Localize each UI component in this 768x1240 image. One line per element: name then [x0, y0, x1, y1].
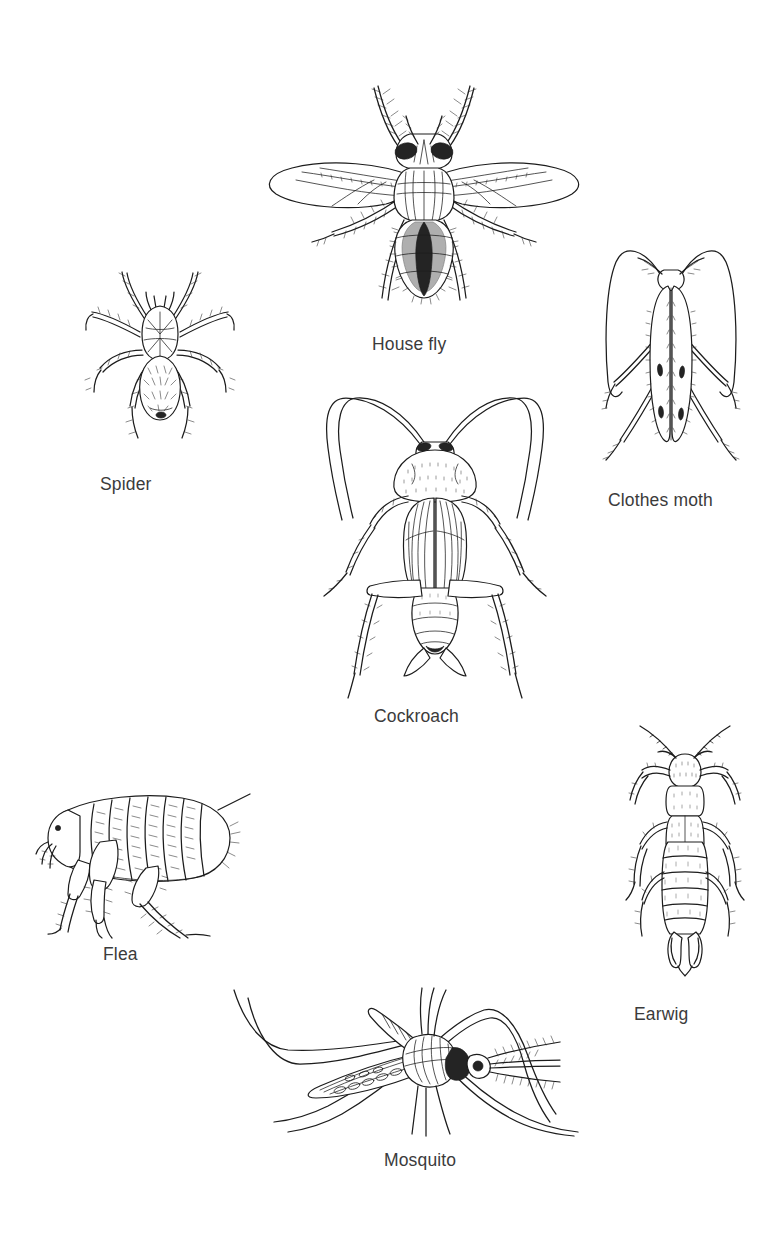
pest-chart-page: House fly — [0, 0, 768, 1240]
label-spider: Spider — [100, 476, 152, 494]
label-clothes-moth: Clothes moth — [608, 492, 713, 510]
label-house-fly: House fly — [372, 336, 446, 354]
house-fly-illustration — [262, 72, 586, 314]
label-flea: Flea — [103, 946, 138, 964]
clothes-moth-illustration — [598, 242, 744, 474]
label-earwig: Earwig — [634, 1006, 688, 1024]
cockroach-illustration — [312, 392, 558, 698]
flea-illustration — [34, 782, 250, 938]
spider-illustration — [82, 256, 238, 442]
earwig-illustration — [622, 722, 748, 978]
label-cockroach: Cockroach — [374, 708, 459, 726]
mosquito-illustration — [204, 982, 596, 1138]
label-mosquito: Mosquito — [384, 1152, 456, 1170]
